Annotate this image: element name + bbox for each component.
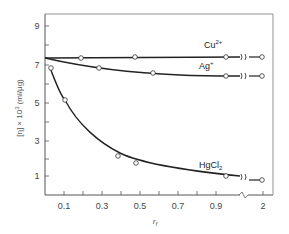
chart: 9 7 5 3 1 0.1 0.3 0.5 0.7 0.9 2 rf [η] ×… bbox=[0, 0, 289, 234]
x-tick-label: 0.1 bbox=[58, 201, 71, 211]
x-tick-label: 0.5 bbox=[134, 201, 147, 211]
y-tick-label: 5 bbox=[34, 98, 39, 108]
series-agplus bbox=[45, 58, 262, 79]
y-tick-label: 9 bbox=[34, 21, 39, 31]
x-ticks bbox=[64, 191, 263, 195]
series-label-cu2plus: Cu2+ bbox=[204, 39, 223, 50]
series-label-hgcl2: HgCl2 bbox=[199, 160, 223, 171]
y-ticks bbox=[45, 26, 49, 176]
y-tick-label: 1 bbox=[34, 171, 39, 181]
x-tick-label: 2 bbox=[260, 201, 265, 211]
series-cu2plus bbox=[45, 54, 262, 60]
series-label-agplus: Ag+ bbox=[199, 60, 214, 71]
x-tick-label: 0.7 bbox=[172, 201, 185, 211]
x-tick-label: 0.3 bbox=[96, 201, 109, 211]
x-axis-title: rf bbox=[153, 217, 159, 227]
y-axis-title: [η] × 103 (ml/μg) bbox=[14, 79, 24, 137]
x-tick-label: 0.9 bbox=[210, 201, 223, 211]
y-tick-label: 7 bbox=[34, 60, 39, 70]
axis-break-icon bbox=[239, 190, 248, 200]
y-tick-label: 3 bbox=[34, 136, 39, 146]
series-hgcl2 bbox=[50, 68, 262, 180]
